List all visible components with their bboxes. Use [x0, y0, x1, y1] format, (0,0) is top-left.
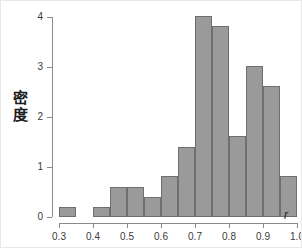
histogram-bar: [246, 66, 263, 217]
y-axis-tick-label: 3: [23, 62, 43, 72]
x-axis-tick: [229, 223, 230, 228]
x-axis-title: r: [284, 209, 288, 221]
y-axis-tick-label: 0: [23, 212, 43, 222]
x-axis-tick: [263, 223, 264, 228]
histogram-bar: [280, 176, 297, 217]
plot-area: [59, 17, 297, 217]
histogram-bar: [110, 187, 127, 218]
histogram-figure: 01234 密度 0.30.40.50.60.70.80.91.0 r: [0, 0, 302, 248]
x-axis-tick: [161, 223, 162, 228]
x-axis-tick-label: 0.7: [180, 231, 210, 242]
y-axis-line: [52, 17, 53, 217]
x-axis-tick: [297, 223, 298, 228]
histogram-bar: [195, 16, 212, 218]
x-axis-tick: [93, 223, 94, 228]
x-axis-tick-label: 0.8: [214, 231, 244, 242]
histogram-bar: [144, 197, 161, 218]
y-axis-tick-label: 4: [23, 12, 43, 22]
histogram-bar: [178, 147, 195, 218]
x-axis-tick: [195, 223, 196, 228]
x-axis-tick-label: 0.5: [112, 231, 142, 242]
x-axis-tick: [59, 223, 60, 228]
x-axis-tick-label: 0.9: [248, 231, 278, 242]
x-axis-tick: [127, 223, 128, 228]
y-axis-tick: [47, 67, 52, 68]
x-axis-line: [59, 223, 297, 224]
x-axis-tick-label: 0.6: [146, 231, 176, 242]
x-axis-tick-label: 1.0: [282, 231, 302, 242]
x-axis-tick-label: 0.3: [44, 231, 74, 242]
y-axis-title-char: 密: [11, 89, 29, 106]
y-axis-tick-label: 1: [23, 162, 43, 172]
histogram-bar: [161, 176, 178, 217]
y-axis-title-char: 度: [11, 106, 29, 123]
y-axis-tick: [47, 17, 52, 18]
histogram-bar: [229, 136, 246, 217]
histogram-bar: [212, 26, 229, 217]
histogram-bar: [263, 86, 280, 217]
y-axis-title: 密度: [11, 89, 29, 123]
x-axis-tick-label: 0.4: [78, 231, 108, 242]
y-axis-tick: [47, 217, 52, 218]
y-axis-tick: [47, 167, 52, 168]
histogram-bar: [127, 187, 144, 218]
y-axis-tick: [47, 117, 52, 118]
histogram-bar: [93, 207, 110, 217]
histogram-bar: [59, 207, 76, 217]
